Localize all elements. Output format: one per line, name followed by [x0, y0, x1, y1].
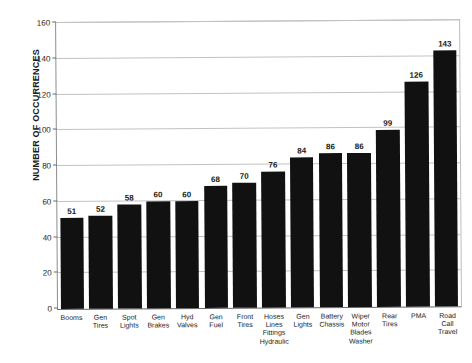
bar[interactable] [433, 51, 458, 307]
x-axis-label: FrontTires [231, 313, 260, 330]
bar[interactable] [117, 205, 141, 309]
bar[interactable] [146, 201, 170, 308]
x-axis-label: HydValves [173, 313, 202, 330]
x-axis-label-line: Tires [86, 322, 115, 330]
x-axis-label: GenBrakes [144, 313, 173, 330]
x-axis-label: WiperMotorBladesWasher [346, 312, 375, 345]
y-tick-label: 120 [37, 90, 50, 99]
x-axis-label-line: Lines [260, 321, 289, 329]
bar-slot[interactable]: 58 [114, 22, 145, 308]
x-axis-label-line: PMA [404, 312, 433, 320]
x-axis-label: PMA [404, 312, 433, 320]
x-axis-label: Booms [57, 314, 86, 322]
x-axis-label: GenFuel [202, 313, 231, 330]
x-axis-label-line: Front [231, 313, 260, 321]
bar-value-label: 84 [287, 146, 316, 155]
bar-value-label: 52 [86, 205, 115, 214]
bar-slot[interactable]: 86 [315, 21, 346, 307]
bar-value-label: 86 [316, 142, 345, 151]
bar-value-label: 126 [402, 70, 431, 79]
bar-slot[interactable]: 60 [171, 22, 202, 308]
bar-value-label: 60 [144, 190, 173, 199]
y-tick-label: 60 [42, 197, 51, 206]
bar-value-label: 70 [230, 172, 259, 181]
plot-area: 020406080100120140160 515258606068707684… [55, 19, 462, 310]
x-axis-label: GenLights [288, 313, 317, 330]
x-axis-label-line: Motor [346, 321, 375, 329]
x-axis-label-line: Gen [144, 313, 173, 321]
x-axis-label-line: Hydraulic [260, 337, 289, 345]
bar-value-label: 76 [259, 161, 288, 170]
x-axis-label-line: Tires [375, 320, 404, 328]
y-tick-label: 20 [43, 269, 52, 278]
x-axis-label-line: Fuel [202, 321, 231, 329]
x-axis-label-line: Battery [317, 312, 346, 320]
x-axis-label-line: Hyd [173, 313, 202, 321]
x-axis-label-line: Lights [288, 321, 317, 329]
bar-slot[interactable]: 84 [286, 21, 317, 307]
bar[interactable] [175, 201, 199, 308]
bar-value-label: 51 [57, 207, 86, 216]
x-axis-label-line: Lights [115, 322, 144, 330]
x-axis-label-line: Washer [346, 337, 375, 345]
x-axis-label-line: Rear [375, 312, 404, 320]
x-axis-label-line: Call [433, 320, 462, 328]
bar-value-label: 99 [373, 119, 402, 128]
x-axis-label-line: Blades [346, 329, 375, 337]
x-axis-label-line: Valves [173, 321, 202, 329]
y-tick-label: 140 [37, 54, 50, 63]
x-axis-label: GenTires [86, 314, 115, 331]
bar-slot[interactable]: 70 [229, 22, 260, 308]
y-tick-label: 80 [42, 162, 51, 171]
x-axis-label-line: Gen [86, 314, 115, 322]
x-axis-label-line: Spot [115, 314, 144, 322]
y-axis-title: NUMBER OF OCCURRENCES [31, 15, 41, 215]
bar[interactable] [376, 130, 401, 307]
x-axis-label-line: Wiper [346, 312, 375, 320]
x-axis-label-line: Travel [433, 328, 462, 336]
x-axis-label: RearTires [375, 312, 404, 329]
bar-value-label: 68 [201, 175, 230, 184]
bar-slot[interactable]: 143 [430, 20, 461, 306]
x-axis-label-line: Tires [231, 321, 260, 329]
y-tick-label: 40 [43, 233, 52, 242]
bar-slot[interactable]: 86 [344, 21, 375, 307]
bar[interactable] [261, 172, 285, 308]
x-axis-label-line: Gen [288, 313, 317, 321]
bar-chart: NUMBER OF OCCURRENCES 020406080100120140… [0, 0, 472, 363]
bar-slot[interactable]: 126 [402, 21, 433, 307]
x-axis-label: HosesLinesFittingsHydraulic [259, 313, 288, 346]
bar-value-label: 143 [430, 40, 459, 49]
bars-layer: 515258606068707684868699126143 [56, 20, 461, 309]
bar-value-label: 58 [115, 194, 144, 203]
bar[interactable] [232, 183, 256, 308]
bar-slot[interactable]: 76 [258, 21, 289, 307]
x-axis-label: BatteryChassis [317, 312, 346, 329]
x-axis-label: SpotLights [115, 314, 144, 331]
bar[interactable] [204, 186, 228, 308]
bar-slot[interactable]: 68 [200, 22, 231, 308]
x-axis-label-line: Gen [202, 313, 231, 321]
bar[interactable] [404, 81, 429, 306]
bar[interactable] [290, 157, 315, 307]
x-axis-label-line: Fittings [260, 329, 289, 337]
bar[interactable] [60, 218, 84, 309]
x-axis-label-line: Brakes [144, 322, 173, 330]
y-tick-label: 100 [37, 126, 50, 135]
bar-slot[interactable]: 60 [142, 22, 173, 308]
y-tick-label: 0 [48, 305, 53, 314]
bar-value-label: 86 [345, 142, 374, 151]
x-axis-label-line: Chassis [317, 321, 346, 329]
bar-slot[interactable]: 52 [85, 23, 116, 309]
y-tick-label: 160 [37, 19, 50, 28]
x-axis-labels: BoomsGenTiresSpotLightsGenBrakesHydValve… [57, 312, 462, 362]
x-axis-label: RoadCallTravel [433, 312, 462, 337]
x-axis-label-line: Road [433, 312, 462, 320]
bar-slot[interactable]: 99 [373, 21, 404, 307]
bar[interactable] [347, 153, 372, 307]
bar-slot[interactable]: 51 [56, 23, 87, 309]
x-axis-label-line: Hoses [259, 313, 288, 321]
bar[interactable] [89, 216, 113, 309]
bar-value-label: 60 [172, 190, 201, 199]
bar[interactable] [319, 153, 344, 307]
